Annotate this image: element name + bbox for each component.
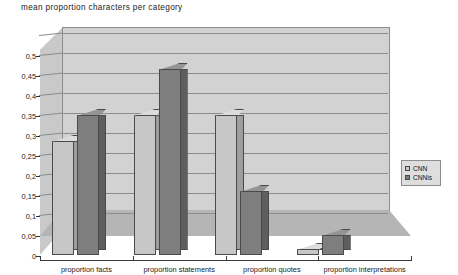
chart-title: mean proportion characters per category [21, 3, 183, 12]
bar-front-face [134, 115, 156, 255]
bar-cnn [134, 115, 156, 255]
x-axis-tick-mark [40, 256, 41, 261]
bar-side-face [99, 115, 106, 250]
x-axis-tick-mark [226, 256, 227, 261]
bar-cnnis [159, 69, 181, 255]
x-axis-tick-mark [318, 256, 319, 261]
bars-layer [0, 24, 458, 244]
bar-top-face [240, 185, 269, 192]
chart-legend: CNN CNNis [401, 160, 441, 186]
bar-cnnis [322, 235, 344, 255]
legend-label: CNNis [413, 174, 432, 181]
bar-front-face [77, 115, 99, 255]
bar-front-face [52, 141, 74, 255]
legend-swatch-icon [405, 175, 410, 180]
bar-front-face [240, 191, 262, 255]
bar-top-face [159, 63, 188, 70]
bar-cnnis [77, 115, 99, 255]
x-axis-category-label: proportion interpretations [318, 265, 411, 275]
legend-item-cnnis[interactable]: CNNis [405, 173, 437, 182]
bar-front-face [215, 115, 237, 255]
chart-plot-area: 00,050,10,150,20,250,30,350,40,450,5 pro… [0, 24, 458, 244]
legend-item-cnn[interactable]: CNN [405, 164, 437, 173]
legend-label: CNN [413, 165, 427, 172]
x-axis-category-label: proportion quotes [226, 265, 319, 275]
x-axis-category-label: proportion facts [40, 265, 133, 275]
legend-swatch-icon [405, 166, 410, 171]
bar-side-face [181, 69, 188, 250]
bar-top-face [77, 109, 106, 116]
bar-top-face [215, 109, 244, 116]
x-axis-tick-mark [411, 256, 412, 261]
bar-cnn [52, 141, 74, 255]
bar-cnnis [240, 191, 262, 255]
bar-side-face [344, 235, 351, 250]
bar-cnn [215, 115, 237, 255]
x-axis-category-label: proportion statements [133, 265, 226, 275]
bar-top-face [322, 229, 351, 236]
bar-cnn [297, 249, 319, 255]
bar-front-face [322, 235, 344, 255]
x-axis-tick-mark [133, 256, 134, 261]
bar-side-face [262, 191, 269, 250]
bar-front-face [159, 69, 181, 255]
